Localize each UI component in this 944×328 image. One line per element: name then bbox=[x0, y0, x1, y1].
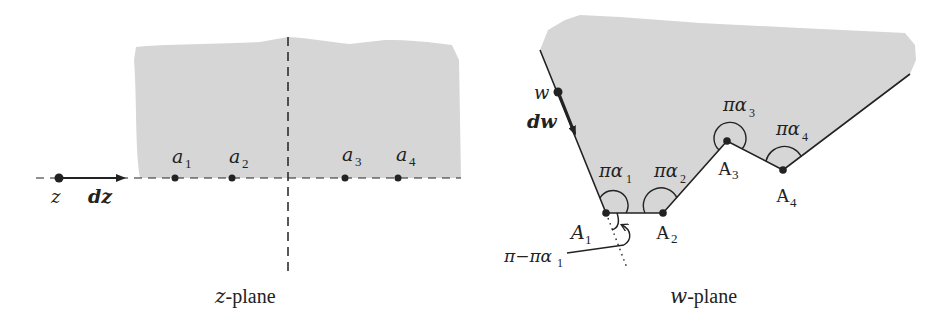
vertex-dot bbox=[723, 137, 731, 145]
exterior-angle-label: π−πα bbox=[503, 246, 553, 266]
exterior-angle-A1: π−πα 1 bbox=[503, 213, 630, 270]
vertex-label: A bbox=[776, 185, 790, 206]
vertex-dot bbox=[779, 166, 787, 174]
dz-label: dz bbox=[88, 185, 113, 207]
prevertex-subscript: 1 bbox=[185, 156, 192, 171]
prevertex-subscript: 2 bbox=[242, 156, 249, 171]
angle-label: πα bbox=[598, 160, 623, 181]
prevertex-dot bbox=[395, 175, 402, 182]
w-point bbox=[554, 88, 563, 97]
vertex-subscript: 4 bbox=[790, 195, 797, 210]
prevertex-subscript: 3 bbox=[355, 154, 362, 169]
angle-subscript: 1 bbox=[626, 172, 632, 186]
prevertex-dot bbox=[229, 175, 236, 182]
w-plane-panel: w dw A 1 πα 1 A 2 πα 2 A 3 πα 3 bbox=[503, 15, 916, 308]
angle-label: πα bbox=[653, 160, 678, 181]
w-plane-caption: w-plane bbox=[670, 284, 737, 308]
vertex-dot bbox=[659, 209, 667, 217]
vertex-subscript: 1 bbox=[585, 232, 592, 247]
exterior-angle-subscript: 1 bbox=[557, 256, 563, 270]
vertex-subscript: 3 bbox=[732, 167, 739, 182]
vertex-subscript: 2 bbox=[671, 231, 678, 246]
exterior-angle-arc bbox=[612, 213, 618, 230]
vertex-label: A bbox=[718, 158, 732, 179]
z-plane-panel: z dz a 1 a 2 a 3 a 4 z-plane bbox=[36, 37, 461, 308]
z-label: z bbox=[50, 186, 61, 207]
vertex-label: A bbox=[569, 221, 585, 243]
prevertex-label: a bbox=[396, 143, 407, 165]
prevertex-label: a bbox=[172, 145, 183, 167]
prevertex-label: a bbox=[342, 143, 353, 165]
leader-line bbox=[567, 245, 624, 253]
angle-subscript: 3 bbox=[749, 106, 755, 120]
conformal-map-figure: z dz a 1 a 2 a 3 a 4 z-plane bbox=[0, 0, 944, 328]
vertex-label: A bbox=[656, 222, 670, 243]
prevertex-dot bbox=[172, 175, 179, 182]
angle-subscript: 4 bbox=[802, 130, 808, 144]
dw-label: dw bbox=[527, 110, 557, 132]
prevertex-dot bbox=[342, 175, 349, 182]
curved-pointer-arrow bbox=[622, 225, 630, 245]
angle-label: πα bbox=[722, 94, 747, 115]
vertex-dot bbox=[602, 209, 610, 217]
prevertex-subscript: 4 bbox=[409, 154, 416, 169]
angle-subscript: 2 bbox=[680, 172, 686, 186]
prevertex-label: a bbox=[229, 145, 240, 167]
angle-label: πα bbox=[775, 118, 800, 139]
w-label: w bbox=[534, 82, 550, 103]
z-plane-caption: z-plane bbox=[214, 284, 276, 308]
